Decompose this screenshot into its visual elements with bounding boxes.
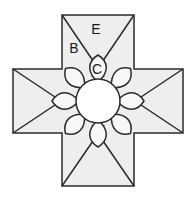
center-circle [76,79,120,123]
cross-rosette-svg: BEC [0,0,196,197]
cross-rosette-figure: BEC [0,0,196,197]
label-b: B [69,40,78,56]
label-c: C [92,61,102,77]
label-e: E [91,21,100,37]
